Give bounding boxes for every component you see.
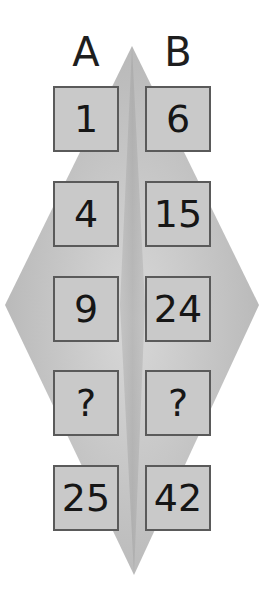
column-a-label: A [56,30,116,74]
cell-b-2: 15 [145,181,211,247]
cell-a-3: 9 [53,276,119,342]
cell-a-2: 4 [53,181,119,247]
cell-a-1: 1 [53,86,119,152]
cell-b-5: 42 [145,465,211,531]
cell-b-3: 24 [145,276,211,342]
cell-b-4: ? [145,370,211,436]
cell-a-5: 25 [53,465,119,531]
diamond-background [0,0,264,591]
cell-b-1: 6 [145,86,211,152]
cell-a-4: ? [53,370,119,436]
column-b-label: B [148,30,208,74]
